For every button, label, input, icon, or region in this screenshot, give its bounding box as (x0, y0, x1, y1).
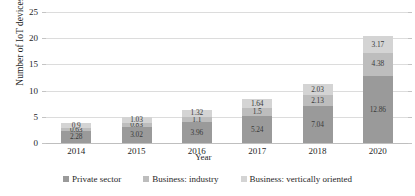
bar-value-label: 5.24 (251, 126, 264, 133)
bar-value-label: 7.04 (311, 121, 324, 128)
plot-area: 2.280.630.93.020.831.033.961.11.325.241.… (46, 12, 408, 143)
x-axis-tick-label: 2015 (128, 146, 146, 156)
bar-segment: 3.02 (122, 127, 152, 143)
bar-value-label: 2.03 (311, 86, 324, 93)
chart-legend: Private sectorBusiness: industryBusiness… (0, 174, 415, 184)
x-axis-tick-label: 2014 (67, 146, 85, 156)
bar-value-label: 3.02 (130, 131, 143, 138)
y-axis-tick-label: 15 (29, 60, 38, 69)
bar-segment: 3.17 (363, 36, 393, 53)
bar-group: 2.280.630.9 (61, 123, 91, 143)
bar-segment: 0.9 (61, 123, 91, 128)
bar-series-container: 2.280.630.93.020.831.033.961.11.325.241.… (46, 12, 408, 143)
bar-value-label: 1.32 (191, 109, 204, 116)
bar-segment: 1.32 (182, 110, 212, 117)
y-axis-tick (408, 64, 412, 65)
legend-swatch-icon (143, 176, 149, 182)
bar-segment: 4.38 (363, 53, 393, 76)
bar-value-label: 12.86 (370, 106, 386, 113)
bar-value-label: 3.17 (372, 41, 385, 48)
bar-group: 7.042.132.03 (303, 84, 333, 143)
bar-value-label: 1.03 (130, 116, 143, 123)
y-axis-tick (408, 38, 412, 39)
x-axis-line (46, 143, 408, 144)
legend-label: Business: industry (152, 174, 218, 184)
bar-group: 3.961.11.32 (182, 110, 212, 143)
y-axis-tick (408, 143, 412, 144)
bar-segment: 2.03 (303, 84, 333, 95)
y-axis-tick (408, 117, 412, 118)
bar-segment: 5.24 (242, 116, 272, 143)
x-axis-tick-label: 2017 (248, 146, 266, 156)
bar-segment: 1.1 (182, 117, 212, 123)
bar-segment: 1.5 (242, 108, 272, 116)
x-axis-tick-labels: 201420152016201720182020 (46, 146, 408, 160)
bar-segment: 12.86 (363, 76, 393, 143)
bar-value-label: 2.28 (70, 133, 83, 140)
bar-value-label: 3.96 (191, 129, 204, 136)
x-axis-tick-label: 2020 (369, 146, 387, 156)
bar-value-label: 1.64 (251, 100, 264, 107)
y-axis-tick-label: 10 (29, 86, 38, 95)
y-axis-tick-label: 0 (34, 139, 39, 148)
bar-group: 3.020.831.03 (122, 117, 152, 143)
legend-item[interactable]: Business: industry (143, 174, 218, 184)
bar-value-label: 1.5 (253, 108, 262, 115)
bar-value-label: 0.9 (72, 122, 81, 129)
legend-swatch-icon (241, 176, 247, 182)
legend-label: Private sector (72, 174, 121, 184)
bar-group: 5.241.51.64 (242, 99, 272, 143)
y-axis-tick (42, 143, 46, 144)
x-axis-tick-label: 2018 (309, 146, 327, 156)
y-axis-tick-labels: 0510152025 (0, 12, 44, 143)
bar-segment: 2.13 (303, 95, 333, 106)
legend-swatch-icon (63, 176, 69, 182)
bar-segment: 1.03 (122, 117, 152, 122)
y-axis-tick-label: 20 (29, 34, 38, 43)
y-axis-tick (408, 91, 412, 92)
bar-segment: 3.96 (182, 122, 212, 143)
y-axis-tick-label: 25 (29, 8, 38, 17)
bar-value-label: 4.38 (372, 60, 385, 67)
y-axis-tick (408, 12, 412, 13)
x-axis-title: Year (195, 152, 212, 162)
legend-item[interactable]: Private sector (63, 174, 121, 184)
bar-value-label: 2.13 (311, 97, 324, 104)
bar-group: 12.864.383.17 (363, 36, 393, 143)
bar-segment: 7.04 (303, 106, 333, 143)
stacked-bar-chart: Number of IoT devices (billions) 0510152… (0, 0, 415, 196)
legend-label: Business: vertically oriented (250, 174, 352, 184)
bar-segment: 1.64 (242, 99, 272, 108)
legend-item[interactable]: Business: vertically oriented (241, 174, 352, 184)
y-axis-tick-label: 5 (34, 112, 39, 121)
